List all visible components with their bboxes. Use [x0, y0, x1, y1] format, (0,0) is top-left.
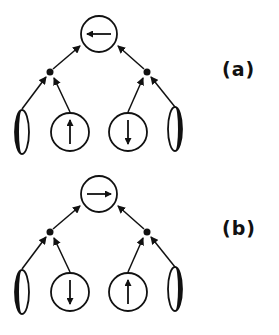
- spin-up-node-b: [109, 273, 147, 311]
- edge: [151, 237, 175, 267]
- spin-down-node-b: [51, 273, 89, 311]
- edge: [53, 206, 80, 229]
- edge: [151, 77, 175, 107]
- ellipse-left-a: [15, 110, 29, 154]
- edge: [53, 46, 80, 69]
- spin-up-node-a: [51, 113, 89, 151]
- ellipse-right-b: [168, 267, 182, 311]
- panel-b-label: (b): [222, 217, 256, 239]
- junction-dot-right-b: [144, 229, 151, 236]
- panel-b: [15, 176, 182, 314]
- ellipse-left-b: [15, 270, 29, 314]
- edge: [54, 238, 70, 272]
- panel-a: [15, 16, 182, 154]
- junction-dot-left-b: [47, 229, 54, 236]
- spin-down-node-a: [109, 113, 147, 151]
- edge: [118, 46, 144, 69]
- ellipse-right-a: [168, 107, 182, 151]
- edge: [22, 237, 46, 269]
- edge: [22, 77, 46, 109]
- edge: [118, 206, 144, 229]
- panel-a-label: (a): [222, 58, 255, 80]
- diagram-canvas: [0, 0, 279, 335]
- edge: [128, 78, 143, 112]
- edge: [128, 238, 143, 272]
- edge: [54, 78, 70, 112]
- junction-dot-right-a: [144, 69, 151, 76]
- junction-dot-left-a: [47, 69, 54, 76]
